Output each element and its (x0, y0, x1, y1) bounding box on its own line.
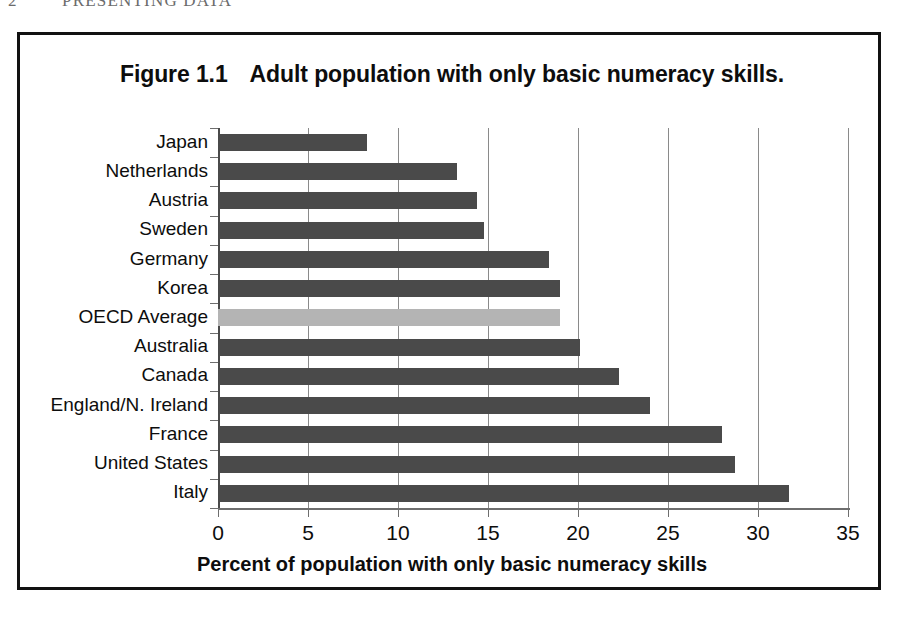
x-axis-tick-label: 10 (368, 521, 428, 545)
page-folio-number: 2 (8, 0, 18, 11)
y-axis-label-korea: Korea (0, 277, 208, 299)
bar-england-n-ireland (218, 397, 650, 414)
bar-sweden (218, 222, 484, 239)
bar-austria (218, 192, 477, 209)
bar-netherlands (218, 163, 457, 180)
gridline-25 (668, 128, 669, 508)
y-tick-mark (210, 274, 218, 275)
x-axis-line (218, 508, 850, 510)
page-running-header: 2 PRESENTING DATA (0, 0, 904, 13)
bar-germany (218, 251, 549, 268)
y-axis-category-labels: JapanNetherlandsAustriaSwedenGermanyKore… (0, 128, 208, 508)
x-axis-title: Percent of population with only basic nu… (20, 553, 884, 576)
y-tick-mark (210, 450, 218, 451)
y-tick-mark (210, 128, 218, 129)
y-axis-label-united-states: United States (0, 452, 208, 474)
x-axis-tick-label: 5 (278, 521, 338, 545)
x-axis-tick-label: 35 (818, 521, 878, 545)
bar-japan (218, 134, 367, 151)
x-tick-mark-0 (218, 508, 219, 517)
y-axis-label-canada: Canada (0, 364, 208, 386)
y-axis-label-netherlands: Netherlands (0, 160, 208, 182)
y-axis-label-sweden: Sweden (0, 218, 208, 240)
x-tick-mark-25 (668, 508, 669, 517)
x-tick-mark-20 (578, 508, 579, 517)
figure-title: Figure 1.1Adult population with only bas… (20, 61, 884, 88)
gridline-20 (578, 128, 579, 508)
bar-australia (218, 339, 580, 356)
y-tick-mark (210, 245, 218, 246)
x-axis-tick-label: 20 (548, 521, 608, 545)
y-tick-mark (210, 391, 218, 392)
x-tick-mark-35 (848, 508, 849, 517)
y-axis-label-austria: Austria (0, 189, 208, 211)
y-axis-label-japan: Japan (0, 131, 208, 153)
y-tick-mark (210, 186, 218, 187)
y-axis-label-england-n-ireland: England/N. Ireland (0, 394, 208, 416)
y-axis-label-germany: Germany (0, 248, 208, 270)
x-axis-tick-label: 15 (458, 521, 518, 545)
x-axis-tick-label: 0 (188, 521, 248, 545)
x-tick-mark-30 (758, 508, 759, 517)
running-title-text: PRESENTING DATA (62, 0, 232, 11)
chart-plot-area (218, 128, 848, 508)
y-tick-mark (210, 479, 218, 480)
y-axis-label-france: France (0, 423, 208, 445)
bar-united-states (218, 456, 735, 473)
bar-korea (218, 280, 560, 297)
x-axis-tick-label: 25 (638, 521, 698, 545)
bar-france (218, 426, 722, 443)
y-axis-label-oecd-average: OECD Average (0, 306, 208, 328)
x-tick-mark-10 (398, 508, 399, 517)
y-axis-label-italy: Italy (0, 481, 208, 503)
y-tick-mark (210, 420, 218, 421)
y-tick-mark (210, 303, 218, 304)
y-tick-mark (210, 157, 218, 158)
figure-frame: Figure 1.1Adult population with only bas… (17, 32, 881, 590)
bar-oecd-average (218, 309, 560, 326)
y-tick-mark (210, 508, 218, 509)
x-tick-mark-15 (488, 508, 489, 517)
x-axis-tick-label: 30 (728, 521, 788, 545)
y-tick-mark (210, 333, 218, 334)
x-tick-mark-5 (308, 508, 309, 517)
y-tick-mark (210, 216, 218, 217)
bar-canada (218, 368, 619, 385)
figure-caption: Adult population with only basic numerac… (250, 61, 784, 87)
gridline-35 (848, 128, 849, 508)
y-axis-label-australia: Australia (0, 335, 208, 357)
gridline-30 (758, 128, 759, 508)
figure-number: Figure 1.1 (120, 61, 228, 87)
y-tick-mark (210, 362, 218, 363)
bar-italy (218, 485, 789, 502)
